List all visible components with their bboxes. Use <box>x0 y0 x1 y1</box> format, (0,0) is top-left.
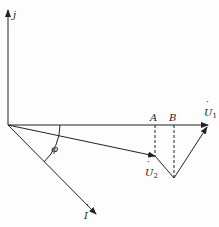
diagram-lines <box>0 0 219 227</box>
u2-subscript: 2 <box>153 172 157 180</box>
u2-symbol: U <box>145 167 153 178</box>
point-b-label: B <box>169 113 176 123</box>
u2-label: U2 <box>145 168 158 180</box>
u2-phasor <box>8 125 155 156</box>
drop-segment-2 <box>174 127 207 178</box>
j-axis-label: j <box>13 10 16 20</box>
current-symbol: I <box>84 210 88 221</box>
u1-label: U1 <box>204 108 217 120</box>
phasor-diagram: j A B U1 U2 I φ <box>0 0 219 227</box>
current-phasor <box>8 125 96 214</box>
phi-label: φ <box>51 144 58 154</box>
current-label: I <box>84 211 88 221</box>
u1-subscript: 1 <box>212 112 216 120</box>
point-a-label: A <box>150 113 157 123</box>
u1-symbol: U <box>204 107 212 118</box>
